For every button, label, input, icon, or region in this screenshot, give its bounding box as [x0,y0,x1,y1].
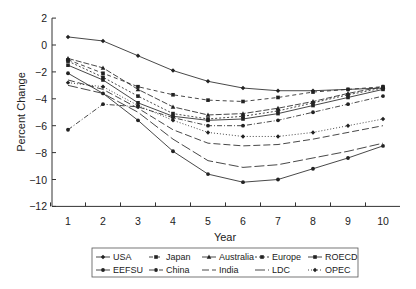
series-eefsu [66,71,385,184]
y-tick-label: −8 [35,147,47,159]
line-chart: 20−2−4−6−8−10−1212345678910 Percent Chan… [0,0,416,289]
x-axis-label: Year [214,231,237,243]
y-tick-label: −10 [29,174,47,186]
legend-label: Europe [272,252,301,262]
y-tick-label: −12 [29,200,47,212]
legend-item-usa: USA [96,252,132,262]
x-tick-label: 6 [240,215,246,227]
series-roecd [66,63,385,122]
y-tick-label: −4 [35,93,47,105]
x-tick-label: 1 [65,215,71,227]
series-usa [66,35,385,93]
y-axis-label: Percent Change [15,72,27,152]
x-tick-label: 10 [377,215,389,227]
legend-item-china: China [149,265,190,275]
x-tick-label: 5 [205,215,211,227]
legend-label: EEFSU [113,265,143,275]
x-tick-label: 3 [135,215,141,227]
series-opec [66,80,385,138]
legend-item-opec: OPEC [308,265,351,275]
legend-label: India [219,265,239,275]
y-tick-label: 0 [41,39,47,51]
x-tick-label: 8 [310,215,316,227]
y-tick-label: −2 [35,66,47,78]
legend-item-europe: Europe [255,252,301,262]
legend-label: Japan [166,252,191,262]
x-tick-label: 9 [345,215,351,227]
legend: USAJapanAustraliaEuropeROECDEEFSUChinaIn… [92,248,358,277]
legend-label: Australia [219,252,254,262]
series-lines [66,35,386,184]
legend-item-ldc: LDC [255,265,291,275]
legend-label: USA [113,252,132,262]
legend-item-eefsu: EEFSU [96,265,143,275]
x-tick-label: 7 [275,215,281,227]
x-tick-label: 2 [100,215,106,227]
y-tick-label: −6 [35,120,47,132]
legend-item-india: India [202,265,239,275]
series-japan [66,58,385,103]
legend-item-japan: Japan [149,252,191,262]
x-tick-label: 4 [170,215,176,227]
legend-label: OPEC [325,265,351,275]
y-tick-label: 2 [41,12,47,24]
legend-label: ROECD [325,252,358,262]
legend-label: LDC [272,265,291,275]
legend-item-australia: Australia [202,252,254,262]
series-ldc [68,85,383,167]
legend-label: China [166,265,190,275]
legend-item-roecd: ROECD [308,252,358,262]
